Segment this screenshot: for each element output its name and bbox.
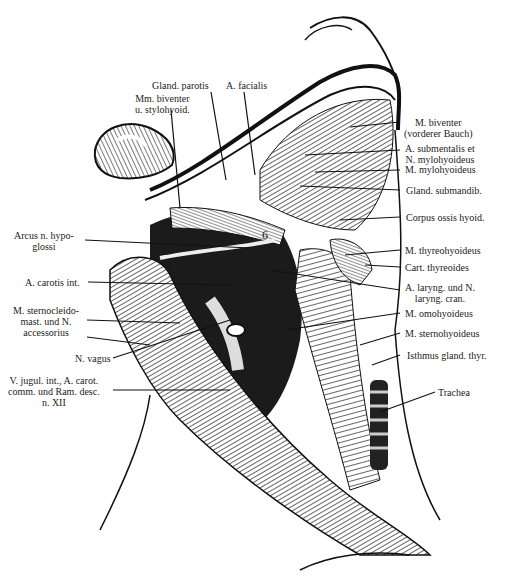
label-line: glossi [14,241,74,252]
label-m-omohyoideus: M. omohyoideus [405,308,473,319]
label-line: laryng. cran. [405,293,475,304]
label-line: accessorius [13,327,79,338]
label-line: Gland. parotis [152,80,209,91]
mylohyoid-region [260,99,393,230]
label-m-sternohyoideus: M. sternohyoideus [405,328,479,339]
label-line: N. vagus [75,353,111,364]
label-line: Isthmus gland. thyr. [407,350,486,361]
label-isthmus-gland-thyr: Isthmus gland. thyr. [407,350,486,361]
label-line: comm. und Ram. desc. [8,386,100,397]
label-m-mylohyoideus: M. mylohyoideus [405,164,476,175]
label-m-thyreohyoideus: M. thyreohyoideus [405,245,481,256]
label-a-facialis: A. facialis [226,80,267,91]
label-a-carotis-int: A. carotis int. [25,277,79,288]
trachea-rings [370,380,388,470]
label-n-vagus: N. vagus [75,353,111,364]
label-arcus-n-hypoglossi: Arcus n. hypo- glossi [14,230,74,252]
label-line: A. facialis [226,80,267,91]
ear [95,124,174,178]
label-mm-biventer-stylohyoid: Mm. biventer u. stylohyoid. [135,93,190,115]
label-gland-submandib: Gland. submandib. [406,185,482,196]
label-line: M. omohyoideus [405,308,473,319]
label-line: M. mylohyoideus [405,164,476,175]
label-line: (vorderer Bauch) [404,128,473,139]
label-line: Corpus ossis hyoid. [406,212,485,223]
label-line: M. sternocleido- [13,305,79,316]
label-trachea: Trachea [438,387,470,398]
label-m-sternocleido: M. sternocleido- mast. und N. accessoriu… [13,305,79,338]
jugular-vein-cut [227,324,245,336]
label-a-submentalis: A. submentalis et N. mylohyoideus [405,143,475,165]
label-line: mast. und N. [13,316,79,327]
label-line: Mm. biventer [135,93,190,104]
label-line: Cart. thyreoides [405,262,469,273]
label-line: Trachea [438,387,470,398]
label-line: A. laryng. und N. [405,282,475,293]
label-a-laryng: A. laryng. und N. laryng. cran. [405,282,475,304]
label-line: u. stylohyoid. [135,104,190,115]
label-line: A. carotis int. [25,277,79,288]
label-line: A. submentalis et [405,143,475,154]
label-corpus-ossis-hyoid: Corpus ossis hyoid. [406,212,485,223]
label-gland-parotis: Gland. parotis [152,80,209,91]
label-line: M. thyreohyoideus [405,245,481,256]
label-line: n. XII [8,397,100,408]
label-line: V. jugul. int., A. carot. [8,375,100,386]
numeral-6: 6 [262,228,268,242]
label-line: M. biventer [404,117,473,128]
label-m-biventer-vorderer: M. biventer (vorderer Bauch) [404,117,473,139]
label-v-jugul: V. jugul. int., A. carot. comm. und Ram.… [8,375,100,408]
label-line: M. sternohyoideus [405,328,479,339]
label-line: Gland. submandib. [406,185,482,196]
label-cart-thyreoides: Cart. thyreoides [405,262,469,273]
label-line: Arcus n. hypo- [14,230,74,241]
